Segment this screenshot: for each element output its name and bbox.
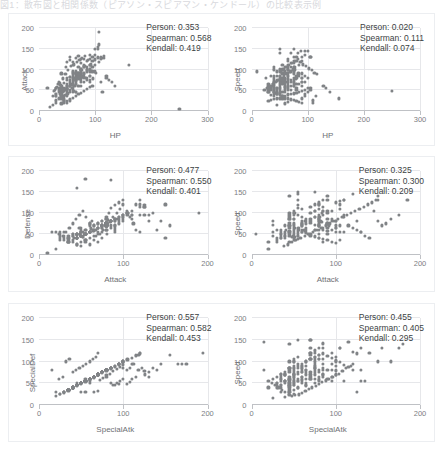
kendall-value: Kendall: 0.295	[359, 333, 424, 344]
x-axis-tick-label: 100	[329, 409, 342, 418]
x-axis-line	[39, 110, 208, 111]
y-axis-tick-label: 50	[238, 379, 246, 388]
pearson-value: Person: 0.455	[359, 312, 424, 323]
y-axis-tick-label: 150	[234, 44, 247, 53]
y-axis-tick-label: 100	[234, 209, 247, 218]
correlation-annotation: Person: 0.557 Spearman: 0.582 Kendall: 0…	[146, 312, 211, 344]
spearman-value: Spearman: 0.568	[146, 33, 211, 44]
chart-panel-bottom-left[interactable]: SpecialDef SpecialAtk 010020005010015020…	[9, 304, 222, 441]
clipped-header-text: 図1：散布図と相関係数（ピアソン・スピアマン・ケンドール）の比較表示例	[0, 0, 443, 11]
y-axis-tick-label: 150	[21, 44, 34, 53]
x-axis-tick-label: 0	[249, 115, 253, 124]
y-axis-tick-label: 200	[21, 167, 34, 176]
spearman-value: Spearman: 0.111	[360, 33, 424, 44]
y-axis-tick-label: 50	[238, 86, 246, 95]
y-axis-tick-label: 100	[21, 357, 34, 366]
y-axis-tick-label: 100	[21, 65, 34, 74]
y-axis-tick-label: 50	[238, 230, 246, 239]
x-axis-tick-label: 200	[414, 409, 427, 418]
panel-row: Attack HP 0100200300050100150200 Person:…	[9, 14, 434, 145]
y-axis-tick-label: 200	[234, 314, 247, 323]
x-axis-tick-label: 100	[89, 115, 102, 124]
y-axis-tick-label: 150	[21, 335, 34, 344]
spearman-value: Spearman: 0.550	[146, 176, 211, 187]
x-axis-tick-label: 100	[329, 259, 342, 268]
chart-panel-top-right[interactable]: Speed HP 0100200300050100150200 Person: …	[222, 14, 435, 145]
y-axis-tick-label: 100	[234, 65, 247, 74]
y-axis-tick-label: 100	[21, 209, 34, 218]
kendall-value: Kendall: 0.401	[146, 186, 211, 197]
chart-card-row-1: Attack HP 0100200300050100150200 Person:…	[8, 13, 435, 146]
pearson-value: Person: 0.557	[146, 312, 211, 323]
y-axis-tick-label: 100	[234, 357, 247, 366]
panel-row: SpecialDef SpecialAtk 010020005010015020…	[9, 304, 434, 441]
panel-row: Defense Attack 0100200050100150200 Perso…	[9, 157, 434, 291]
spearman-value: Spearman: 0.300	[359, 176, 424, 187]
kendall-value: Kendall: 0.209	[359, 186, 424, 197]
x-axis-tick-label: 300	[414, 115, 427, 124]
correlation-annotation: Person: 0.455 Spearman: 0.405 Kendall: 0…	[359, 312, 424, 344]
x-axis-tick-label: 0	[249, 409, 253, 418]
y-axis-tick-label: 150	[234, 188, 247, 197]
x-axis-tick-label: 100	[117, 259, 130, 268]
y-axis-tick-label: 0	[242, 251, 246, 260]
y-axis-tick-label: 0	[30, 107, 34, 116]
y-axis-tick-label: 50	[26, 86, 34, 95]
y-axis-tick-label: 0	[242, 107, 246, 116]
x-axis-line	[252, 110, 421, 111]
y-axis-tick-label: 200	[234, 167, 247, 176]
kendall-value: Kendall: 0.074	[360, 43, 424, 54]
chart-card-row-2: Defense Attack 0100200050100150200 Perso…	[8, 156, 435, 292]
x-axis-tick-label: 0	[249, 259, 253, 268]
pearson-value: Person: 0.325	[359, 165, 424, 176]
spearman-value: Spearman: 0.405	[359, 323, 424, 334]
x-axis-tick-label: 300	[201, 115, 214, 124]
spearman-value: Spearman: 0.582	[146, 323, 211, 334]
screenshot-root: 図1：散布図と相関係数（ピアソン・スピアマン・ケンドール）の比較表示例 Atta…	[0, 0, 443, 451]
x-axis-tick-label: 200	[414, 259, 427, 268]
chart-card-row-3: SpecialDef SpecialAtk 010020005010015020…	[8, 303, 435, 442]
x-axis-tick-label: 100	[117, 409, 130, 418]
pearson-value: Person: 0.477	[146, 165, 211, 176]
y-axis-tick-label: 0	[30, 251, 34, 260]
kendall-value: Kendall: 0.453	[146, 333, 211, 344]
x-axis-tick-label: 200	[201, 259, 214, 268]
chart-panel-bottom-right[interactable]: Speed SpecialAtk 0100200050100150200 Per…	[222, 304, 435, 441]
y-axis-tick-label: 150	[234, 335, 247, 344]
y-axis-tick-label: 50	[26, 230, 34, 239]
y-axis-tick-label: 200	[21, 24, 34, 33]
x-axis-tick-label: 200	[145, 115, 158, 124]
chart-panel-middle-left[interactable]: Defense Attack 0100200050100150200 Perso…	[9, 157, 222, 291]
correlation-annotation: Person: 0.325 Spearman: 0.300 Kendall: 0…	[359, 165, 424, 197]
x-axis-tick-label: 200	[358, 115, 371, 124]
chart-panel-middle-right[interactable]: Speed Attack 0100200050100150200 Person:…	[222, 157, 435, 291]
y-axis-tick-label: 200	[21, 314, 34, 323]
x-axis-tick-label: 0	[37, 409, 41, 418]
x-axis-tick-label: 0	[37, 115, 41, 124]
y-axis-tick-label: 150	[21, 188, 34, 197]
x-axis-tick-label: 100	[301, 115, 314, 124]
y-axis-tick-label: 50	[26, 379, 34, 388]
correlation-annotation: Person: 0.353 Spearman: 0.568 Kendall: 0…	[146, 22, 211, 54]
y-axis-tick-label: 0	[30, 401, 34, 410]
x-axis-tick-label: 200	[201, 409, 214, 418]
correlation-annotation: Person: 0.020 Spearman: 0.111 Kendall: 0…	[360, 22, 424, 54]
chart-panel-top-left[interactable]: Attack HP 0100200300050100150200 Person:…	[9, 14, 222, 145]
x-axis-tick-label: 0	[37, 259, 41, 268]
pearson-value: Person: 0.353	[146, 22, 211, 33]
y-axis-tick-label: 200	[234, 24, 247, 33]
y-axis-tick-label: 0	[242, 401, 246, 410]
correlation-annotation: Person: 0.477 Spearman: 0.550 Kendall: 0…	[146, 165, 211, 197]
pearson-value: Person: 0.020	[360, 22, 424, 33]
kendall-value: Kendall: 0.419	[146, 43, 211, 54]
